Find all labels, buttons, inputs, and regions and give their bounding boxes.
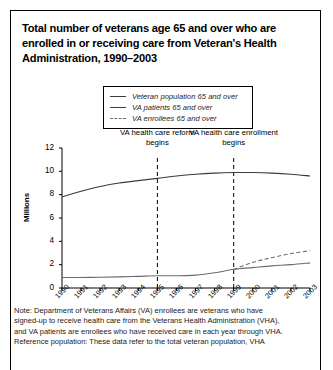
legend-line-swatch-solid: [109, 93, 127, 101]
chart-legend: Veteran population 65 and over VA patien…: [103, 86, 253, 129]
legend-line-swatch-solid: [109, 104, 127, 112]
legend-label: VA enrollees 65 and over: [132, 114, 217, 123]
note-line: and VA patients are enrollees who have r…: [14, 327, 306, 337]
note-line: Note: Department of Veterans Affairs (VA…: [14, 306, 306, 316]
note-line: signed-up to receive health care from th…: [14, 316, 306, 326]
legend-label: VA patients 65 and over: [132, 103, 212, 112]
note-line: Reference population: These data refer t…: [14, 337, 306, 347]
legend-label: Veteran population 65 and over: [132, 92, 238, 101]
legend-item-va-patients: VA patients 65 and over: [109, 102, 247, 113]
legend-item-va-enrollees: VA enrollees 65 and over: [109, 113, 247, 124]
legend-line-swatch-dashed: [109, 115, 127, 123]
chart-title: Total number of veterans age 65 and over…: [22, 21, 308, 65]
chart-note: Note: Department of Veterans Affairs (VA…: [14, 306, 306, 347]
legend-item-veteran-population: Veteran population 65 and over: [109, 91, 247, 102]
